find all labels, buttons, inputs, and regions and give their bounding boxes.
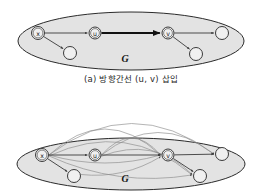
node-label-v: v: [166, 30, 170, 37]
node-label-x: x: [36, 30, 40, 37]
graph-node-x: x: [36, 149, 49, 162]
graph-node-n1: [64, 47, 77, 60]
graph-node-v: v: [162, 27, 174, 39]
graph-node-u: u: [89, 149, 101, 161]
node-circle-n1: [68, 170, 81, 183]
figure-a-caption: (a) 방향간선 (u, v) 삽입: [0, 72, 262, 84]
graph-node-n3: [216, 27, 229, 40]
graph-name-label: G: [121, 53, 129, 64]
graph-node-u: u: [89, 27, 101, 39]
node-circle-n3: [216, 148, 229, 161]
graph-node-x: x: [32, 27, 45, 40]
graph-boundary-ellipse: [17, 138, 245, 190]
node-label-u: u: [93, 152, 97, 159]
graph-node-v: v: [162, 149, 174, 161]
graph-node-n3: [216, 148, 229, 161]
node-label-u: u: [93, 30, 97, 37]
graph-boundary-ellipse: [18, 12, 244, 70]
figure-b-container: xuvG: [0, 92, 262, 192]
figure-a-diagram: xuvG: [0, 0, 262, 72]
node-circle-n2: [190, 48, 203, 61]
node-label-v: v: [166, 152, 170, 159]
graph-node-n1: [68, 170, 81, 183]
node-circle-n1: [64, 47, 77, 60]
figure-page: xuvG (a) 방향간선 (u, v) 삽입 xuvG: [0, 0, 262, 192]
graph-node-n2: [194, 170, 207, 183]
graph-node-n2: [190, 48, 203, 61]
figure-b-diagram: xuvG: [0, 92, 262, 192]
graph-name-label: G: [121, 173, 129, 184]
node-label-x: x: [40, 152, 44, 159]
node-circle-n2: [194, 170, 207, 183]
node-circle-n3: [216, 27, 229, 40]
figure-a-container: xuvG (a) 방향간선 (u, v) 삽입: [0, 0, 262, 92]
